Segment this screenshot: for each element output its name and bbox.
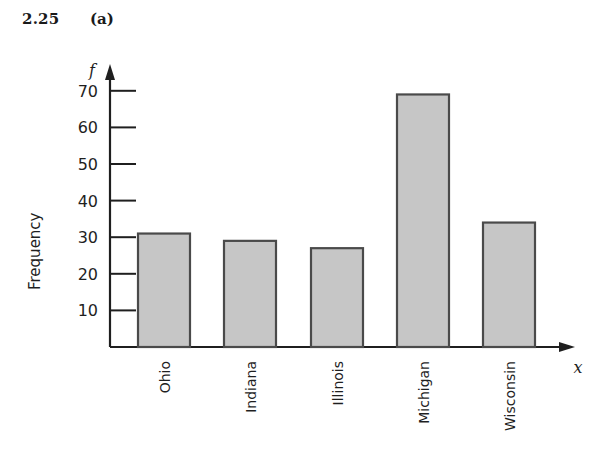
y-axis-tick-label: 30 [78, 228, 98, 247]
x-axis-arrow-icon [559, 342, 575, 352]
bar-wisconsin [483, 223, 535, 347]
y-axis-tick-label: 50 [78, 155, 98, 174]
bar-indiana [224, 241, 276, 347]
category-labels: OhioIndianaIllinoisMichiganWisconsin [157, 361, 518, 431]
bar-chart: f x Frequency 10203040506070 OhioIndiana… [0, 0, 609, 462]
category-label-illinois: Illinois [330, 361, 346, 405]
bar-ohio [138, 234, 190, 347]
bars-group [138, 94, 535, 347]
y-axis-tick-label: 40 [78, 192, 98, 211]
category-label-ohio: Ohio [157, 361, 173, 393]
category-label-indiana: Indiana [243, 361, 259, 413]
y-axis-variable-label: f [88, 61, 98, 80]
category-label-michigan: Michigan [416, 361, 432, 424]
bar-illinois [311, 248, 363, 347]
y-axis-tick-label: 10 [78, 301, 98, 320]
y-axis-arrow-icon [105, 64, 115, 80]
y-axis-tick-label: 70 [78, 82, 98, 101]
x-axis-variable-label: x [573, 358, 582, 377]
y-axis-title: Frequency [26, 212, 44, 290]
y-axis-tick-label: 60 [78, 118, 98, 137]
y-axis-ticks: 10203040506070 [78, 82, 136, 321]
chart-svg: f x Frequency 10203040506070 OhioIndiana… [0, 0, 609, 462]
y-axis [105, 64, 115, 347]
category-label-wisconsin: Wisconsin [502, 361, 518, 431]
bar-michigan [397, 94, 449, 347]
y-axis-tick-label: 20 [78, 265, 98, 284]
